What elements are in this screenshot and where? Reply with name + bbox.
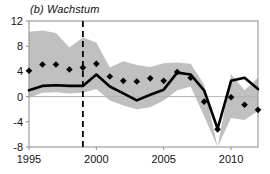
y-tick-label: 12 [11, 15, 23, 27]
x-tick-label: 2005 [151, 153, 175, 165]
y-tick-label: 8 [17, 40, 23, 52]
x-tick-label: 1995 [17, 153, 41, 165]
y-tick-label: 4 [17, 65, 23, 77]
x-tick-label: 2000 [84, 153, 108, 165]
data-point-diamond [214, 126, 221, 133]
y-tick-label: -4 [13, 116, 23, 128]
chart-figure: (b) Wachstum 12840-4-81995200020052010 [0, 0, 270, 174]
chart-plot: 12840-4-81995200020052010 [0, 0, 270, 174]
x-tick-label: 2010 [219, 153, 243, 165]
y-tick-label: 0 [17, 91, 23, 103]
confidence-band [29, 30, 258, 147]
y-tick-label: -8 [13, 141, 23, 153]
